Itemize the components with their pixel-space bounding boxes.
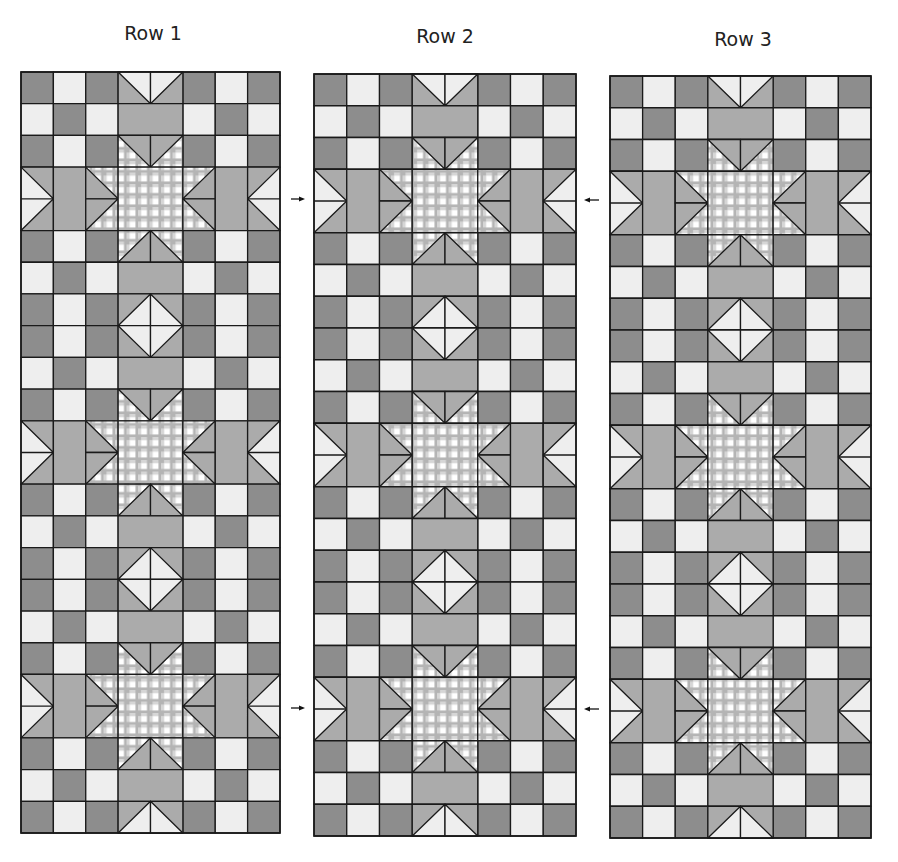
alignment-arrow-right-icon bbox=[291, 706, 305, 711]
alignment-arrow-left-icon bbox=[584, 707, 599, 712]
quilt-row-panel-2 bbox=[314, 74, 576, 836]
quilt-assembly-diagram bbox=[0, 0, 898, 862]
quilt-row-panel-3 bbox=[610, 76, 871, 838]
alignment-arrow-left-icon bbox=[584, 198, 599, 203]
quilt-row-panel-1 bbox=[21, 72, 280, 833]
alignment-arrow-right-icon bbox=[291, 197, 305, 202]
